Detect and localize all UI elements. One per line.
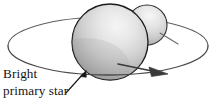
caption-line-2: primary star (3, 83, 69, 98)
binary-star-diagram: Bright primary star (0, 0, 218, 102)
direction-arrow-head (149, 67, 168, 77)
caption-line-1: Bright (3, 66, 38, 81)
diagram-canvas: Bright primary star (0, 0, 218, 102)
orbit-companion-link (160, 33, 178, 44)
